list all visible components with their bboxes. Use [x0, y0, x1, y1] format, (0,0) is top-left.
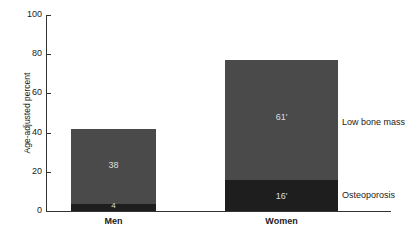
y-tick: [46, 15, 51, 16]
y-tick-label: 20: [6, 166, 42, 176]
value-label: 61': [225, 112, 338, 122]
y-tick: [46, 93, 51, 94]
value-label: 38: [71, 160, 156, 170]
y-tick: [46, 54, 51, 55]
bar-men-low-bone-mass: 38: [71, 129, 156, 204]
bar-men-osteoporosis: 4: [71, 204, 156, 211]
x-category-label: Women: [225, 216, 338, 226]
y-axis: [46, 15, 47, 212]
y-axis-label: Age-adjusted percent: [22, 58, 32, 168]
legend-low-bone-mass: Low bone mass: [342, 117, 405, 127]
x-axis: [46, 211, 391, 212]
bar-women-low-bone-mass: 61': [225, 60, 338, 180]
y-tick-label: 80: [6, 48, 42, 58]
value-label: 16': [225, 191, 338, 201]
y-tick: [46, 133, 51, 134]
y-tick-label: 60: [6, 87, 42, 97]
bar-women-osteoporosis: 16': [225, 180, 338, 211]
x-category-label: Men: [71, 216, 156, 226]
value-label: 4: [71, 201, 156, 210]
y-tick: [46, 172, 51, 173]
y-tick-label: 100: [6, 9, 42, 19]
y-tick: [46, 211, 51, 212]
y-tick-label: 0: [6, 205, 42, 215]
y-tick-label: 40: [6, 127, 42, 137]
legend-osteoporosis: Osteoporosis: [342, 190, 395, 200]
